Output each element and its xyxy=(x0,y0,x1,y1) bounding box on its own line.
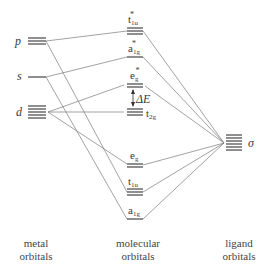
label-sigma: σ xyxy=(248,136,255,150)
caption-line: molecular xyxy=(108,237,168,250)
label-delta-e: ΔE xyxy=(135,92,151,106)
level-eg xyxy=(127,164,143,167)
caption-line: orbitals xyxy=(12,250,60,263)
mo-levels xyxy=(127,28,143,219)
delta-e-arrow xyxy=(131,89,135,107)
caption-line: orbitals xyxy=(214,250,264,263)
level-t1u xyxy=(127,189,143,195)
label-t1u-star: t1u* xyxy=(128,10,139,27)
caption-ligand-orbitals: ligand orbitals xyxy=(214,237,264,263)
metal-levels xyxy=(28,38,46,118)
label-eg: eg xyxy=(130,149,139,163)
caption-line: metal xyxy=(12,237,60,250)
level-t1u-star xyxy=(127,28,143,34)
label-eg-star: eg* xyxy=(130,66,139,83)
label-a1g: a1g xyxy=(128,204,140,218)
label-p: p xyxy=(14,34,21,48)
caption-line: ligand xyxy=(214,237,264,250)
label-t1u: t1u xyxy=(128,175,139,189)
caption-metal-orbitals: metal orbitals xyxy=(12,237,60,263)
label-t2g: t2g xyxy=(146,107,157,121)
label-d: d xyxy=(16,105,23,119)
ligand-levels xyxy=(226,135,242,150)
label-a1g-star: a1g* xyxy=(128,39,140,56)
label-s: s xyxy=(17,69,22,83)
caption-molecular-orbitals: molecular orbitals xyxy=(108,237,168,263)
caption-line: orbitals xyxy=(108,250,168,263)
level-p xyxy=(28,38,46,44)
correlation-lines xyxy=(46,31,224,219)
level-eg-star xyxy=(127,84,143,87)
level-t2g xyxy=(127,109,143,115)
mo-diagram: p s d t1u* a1g* eg* t2g eg t1u a1g ΔE σ xyxy=(0,0,268,270)
level-d xyxy=(28,106,46,118)
